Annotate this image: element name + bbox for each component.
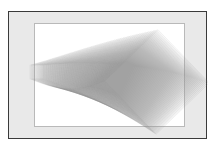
inner-canvas-plate xyxy=(34,23,185,127)
figure-root: Rotating Square Fan xyxy=(0,0,223,152)
outer-frame xyxy=(8,11,207,139)
